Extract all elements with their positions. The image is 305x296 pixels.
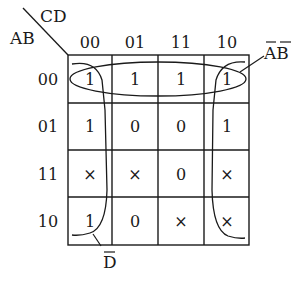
cell-r1-c3: 1	[222, 117, 232, 136]
cell-r2-c2: 0	[176, 165, 186, 184]
cell-r0-c1: 1	[130, 70, 140, 89]
col-header-11: 11	[171, 33, 191, 52]
col-var-label: CD	[40, 6, 67, 26]
label-abbar: AB	[263, 43, 289, 63]
cell-r0-c2: 1	[176, 70, 186, 89]
col-header-10: 10	[217, 33, 237, 52]
karnaugh-map-svg: CD AB 00 01 11 10 00 01 11 10 1 1 1 1 1 …	[0, 0, 305, 296]
row-header-11: 11	[38, 165, 58, 184]
cell-r3-c3: ×	[220, 212, 233, 231]
leader-dbar	[93, 234, 101, 246]
cell-r0-c0: 1	[85, 70, 95, 89]
cell-r2-c0: ×	[83, 165, 96, 184]
cell-r1-c0: 1	[85, 117, 95, 136]
karnaugh-map: CD AB 00 01 11 10 00 01 11 10 1 1 1 1 1 …	[0, 0, 305, 296]
label-dbar: D	[103, 252, 117, 272]
row-header-10: 10	[38, 212, 58, 231]
row-header-00: 00	[38, 70, 58, 89]
cell-r3-c0: 1	[85, 212, 95, 231]
row-var-label: AB	[9, 28, 35, 48]
cell-r2-c1: ×	[128, 165, 141, 184]
col-header-00: 00	[80, 33, 100, 52]
leader-abbar	[240, 56, 264, 72]
row-header-01: 01	[38, 117, 58, 136]
cell-r1-c2: 0	[176, 117, 186, 136]
cell-r3-c1: 0	[130, 212, 140, 231]
col-header-01: 01	[125, 33, 145, 52]
cell-r1-c1: 0	[130, 117, 140, 136]
cell-r2-c3: ×	[220, 165, 233, 184]
cell-r0-c3: 1	[222, 70, 232, 89]
cell-r3-c2: ×	[174, 212, 187, 231]
